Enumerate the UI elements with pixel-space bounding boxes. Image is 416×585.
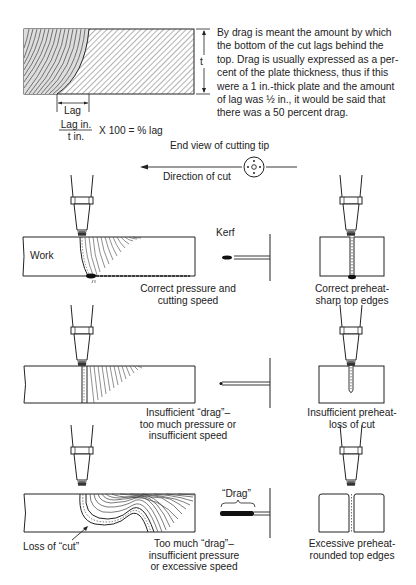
loss-of-cut-label: Loss of “cut” xyxy=(23,541,79,553)
caption-line: Correct preheat- xyxy=(304,283,400,295)
row3-end-view xyxy=(319,425,384,532)
row2-side-caption: Insufficient “drag”– too much pressure o… xyxy=(130,407,246,442)
caption-line: rounded top edges xyxy=(304,550,400,562)
row2-side-view xyxy=(24,305,195,403)
formula-denominator: t in. xyxy=(58,131,94,143)
caption-line: loss of cut xyxy=(300,419,404,431)
caption-line: Excessive preheat- xyxy=(304,538,400,550)
row1-end-caption: Correct preheat- sharp top edges xyxy=(304,283,400,306)
kerf-label: Kerf xyxy=(216,227,235,239)
row1-end-view xyxy=(320,175,384,279)
intro-line: the bottom of the cut lags behind the xyxy=(217,39,398,52)
thickness-label: t xyxy=(200,56,203,68)
caption-line: Too much “drag”– xyxy=(140,538,248,550)
row3-end-caption: Excessive preheat- rounded top edges xyxy=(304,538,400,561)
direction-of-cut-arrow xyxy=(140,165,297,170)
row1-kerf-diagram xyxy=(222,234,270,281)
cutting-tip-end-view xyxy=(244,157,264,177)
direction-label: Direction of cut xyxy=(163,171,231,183)
caption-line: insufficient pressure xyxy=(140,550,248,562)
caption-line: sharp top edges xyxy=(304,295,400,307)
plate-lag-diagram xyxy=(24,29,210,130)
caption-line: Insufficient preheat- xyxy=(300,407,404,419)
intro-line: of lag was ½ in., it would be said that xyxy=(217,93,398,106)
row3-side-caption: Too much “drag”– insufficient pressure o… xyxy=(140,538,248,573)
caption-line: cutting speed xyxy=(130,295,246,307)
intro-line: were a 1 in.-thick plate and the amount xyxy=(217,80,398,93)
work-label: Work xyxy=(30,250,54,262)
intro-line: By drag is meant the amount by which xyxy=(217,26,398,39)
caption-line: Correct pressure and xyxy=(130,283,246,295)
drag-label: “Drag” xyxy=(222,488,251,500)
intro-line: cent of the plate thickness, thus if thi… xyxy=(217,66,398,79)
row2-end-caption: Insufficient preheat- loss of cut xyxy=(300,407,404,430)
caption-line: Insufficient “drag”– xyxy=(130,407,246,419)
row1-side-caption: Correct pressure and cutting speed xyxy=(130,283,246,306)
caption-line: insufficient speed xyxy=(130,430,246,442)
formula-rest: X 100 = % lag xyxy=(99,125,163,137)
intro-line: top. Drag is usually expressed as a per- xyxy=(217,53,398,66)
caption-line: too much pressure or xyxy=(130,419,246,431)
tip-view-title: End view of cutting tip xyxy=(170,140,269,152)
formula-numerator: Lag in. xyxy=(58,119,94,131)
drag-definition-text: By drag is meant the amount by which the… xyxy=(217,26,398,120)
lag-label: Lag xyxy=(64,105,81,117)
row2-end-view xyxy=(319,305,384,403)
caption-line: or excessive speed xyxy=(140,561,248,573)
intro-line: there was a 50 percent drag. xyxy=(217,106,398,119)
row1-side-view xyxy=(23,175,195,283)
row2-kerf-diagram xyxy=(220,358,271,408)
row3-side-view xyxy=(24,425,195,540)
